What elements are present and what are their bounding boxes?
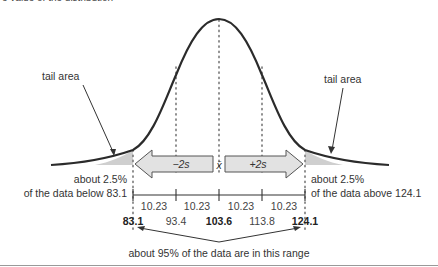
bell-curve	[51, 19, 389, 165]
right-tail-desc: of the data above 124.1	[311, 187, 422, 199]
mean-symbol: x̄	[215, 159, 222, 171]
tick-value-2: 93.4	[166, 215, 187, 227]
tick-value-1: 83.1	[123, 215, 144, 227]
interval-4: 10.23	[271, 200, 297, 212]
tick-value-3: 103.6	[206, 215, 232, 227]
tick-value-5: 124.1	[292, 215, 318, 227]
minus-2s-label: −2s	[172, 158, 190, 170]
normal-distribution-diagram: tail area tail area −2s +2s x̄ about 2.5…	[0, 0, 438, 267]
tail-pointer-right-head	[328, 146, 335, 154]
range-arrows	[140, 228, 298, 242]
plus-2s-label: +2s	[249, 158, 267, 170]
tail-label-right: tail area	[324, 73, 362, 85]
tail-pointer-left	[83, 85, 114, 154]
interval-2: 10.23	[184, 200, 210, 212]
tail-pointer-right	[332, 88, 343, 150]
right-tail-percent: about 2.5%	[311, 173, 364, 185]
range-note: about 95% of the data are in this range	[129, 247, 310, 259]
left-tail-percent: about 2.5%	[74, 173, 127, 185]
tick-value-4: 113.8	[249, 215, 275, 227]
left-tail-desc: of the data below 83.1	[24, 187, 127, 199]
tail-label-left: tail area	[42, 70, 80, 82]
interval-1: 10.23	[141, 200, 167, 212]
interval-3: 10.23	[228, 200, 254, 212]
